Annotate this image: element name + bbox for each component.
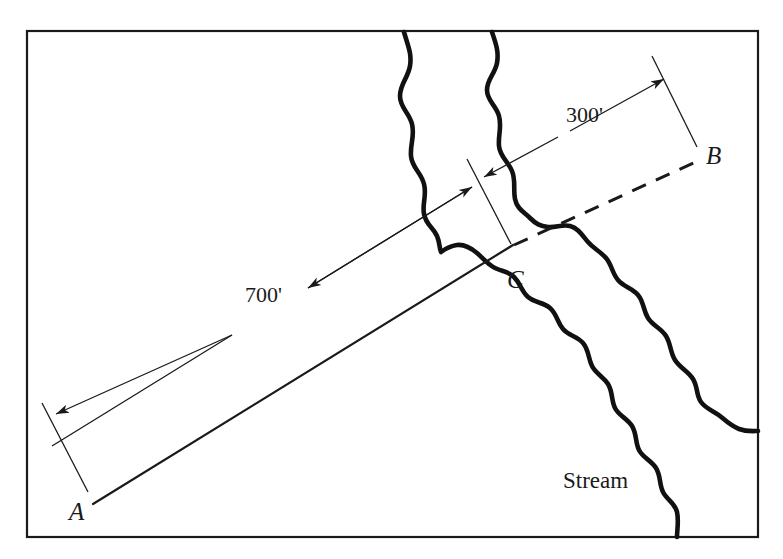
extension-tick-a [42, 403, 88, 492]
label-distance-300: 300' [566, 102, 603, 127]
label-point-c: C [507, 266, 524, 293]
diagram-canvas: A B C 700' 300' Stream [0, 0, 783, 559]
label-distance-700: 700' [245, 282, 282, 307]
extension-tick-b [652, 56, 697, 147]
survey-diagram: A B C 700' 300' Stream [0, 0, 783, 559]
dimension-line-700-left [52, 335, 232, 446]
extension-tick-c [467, 159, 511, 244]
survey-line-c-to-b [514, 160, 700, 245]
dimension-arrow-700-toward-a [56, 335, 232, 414]
dimension-arrow-300-toward-c [484, 137, 558, 177]
label-point-b: B [706, 142, 721, 169]
stream-bank-east [487, 32, 758, 431]
survey-line-a-to-c [93, 245, 513, 504]
stream-bank-west [400, 32, 678, 537]
label-stream: Stream [563, 468, 628, 493]
dimension-arrow-700-toward-c [308, 187, 472, 288]
label-point-a: A [67, 498, 85, 525]
